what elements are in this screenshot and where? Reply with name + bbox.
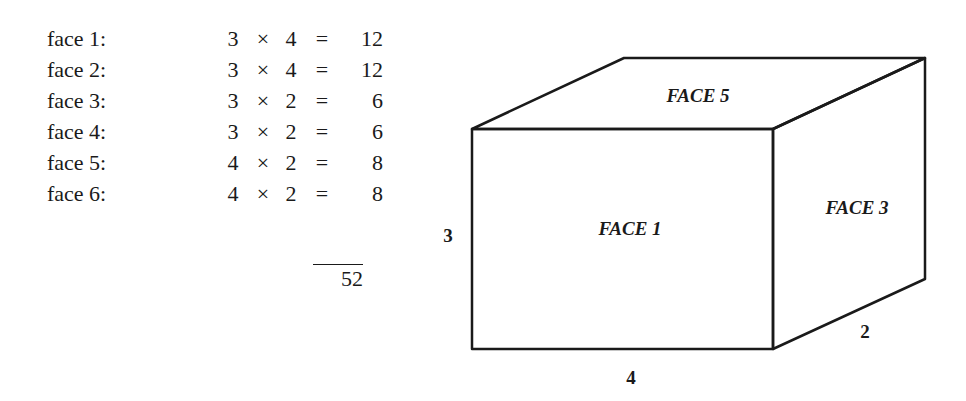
height-label: 3: [443, 225, 453, 246]
length-label: 4: [626, 367, 636, 388]
front-face: [472, 129, 773, 349]
rectangular-prism-diagram: FACE 5 FACE 1 FACE 3 3 4 2: [0, 0, 966, 401]
face-1-label: FACE 1: [597, 218, 661, 239]
face-3-label: FACE 3: [824, 197, 888, 218]
depth-label: 2: [860, 321, 870, 342]
face-5-label: FACE 5: [665, 85, 730, 106]
